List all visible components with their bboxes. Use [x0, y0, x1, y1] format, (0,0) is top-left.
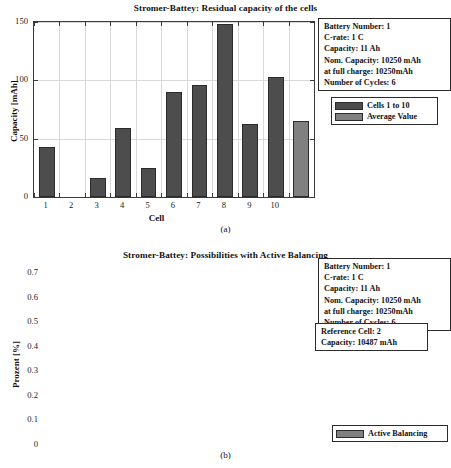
axis-tick: [238, 193, 239, 197]
legend-b: Active Balancing: [332, 425, 448, 442]
info-box-b: Battery Number: 1 C-rate: 1 C Capacity: …: [318, 258, 451, 331]
chart-title-a: Stromer-Battey: Residual capacity of the…: [0, 3, 451, 13]
gridline-vertical: [263, 22, 264, 197]
legend-swatch: [335, 102, 363, 110]
legend-a: Cells 1 to 10Average Value: [331, 97, 438, 125]
info-battery-number: Battery Number: 1: [324, 261, 446, 272]
info-capacity: Capacity: 11 Ah: [324, 43, 446, 54]
axis-tick: [34, 193, 35, 197]
gridline-vertical: [59, 22, 60, 197]
reference-cell-box: Reference Cell: 2 Capacity: 10487 mAh: [315, 323, 428, 351]
info-c-rate: C-rate: 1 C: [324, 32, 446, 43]
x-axis-tick-label: 2: [69, 200, 73, 210]
x-axis-tick-label: 7: [196, 200, 200, 210]
bar: [217, 24, 233, 197]
y-axis-tick-label: 0: [0, 191, 28, 201]
axis-tick: [59, 193, 60, 197]
y-axis-tick-label: 0.1: [0, 414, 38, 424]
axis-tick: [314, 193, 315, 197]
axis-tick: [34, 22, 35, 26]
axis-tick: [110, 193, 111, 197]
x-axis-tick-label: 10: [271, 200, 280, 210]
x-axis-tick-label: 5: [145, 200, 149, 210]
axis-tick: [34, 139, 38, 140]
gridline-vertical: [212, 22, 213, 197]
bar: [141, 168, 157, 197]
x-axis-title-a: Cell: [0, 213, 313, 223]
axis-tick: [263, 22, 264, 26]
y-axis-tick-label: 0.6: [0, 292, 38, 302]
axis-tick: [187, 22, 188, 26]
y-axis-tick-label: 0: [0, 439, 38, 449]
x-axis-tick-label: 9: [247, 200, 251, 210]
gridline-vertical: [85, 22, 86, 197]
figure-active-balancing: Stromer-Battey: Possibilities with Activ…: [0, 240, 451, 468]
axis-tick: [289, 193, 290, 197]
gridline-vertical: [238, 22, 239, 197]
axis-tick: [136, 193, 137, 197]
figure-caption-a: (a): [0, 224, 451, 234]
info-number-of-cycles: Number of Cycles: 6: [324, 77, 446, 88]
axis-tick: [136, 22, 137, 26]
legend-item-label: Cells 1 to 10: [367, 101, 410, 111]
axis-tick: [85, 193, 86, 197]
info-c-rate: C-rate: 1 C: [324, 272, 446, 283]
y-axis-tick-label: 100: [0, 74, 28, 84]
gridline-horizontal: [34, 22, 314, 23]
axis-tick: [59, 22, 60, 26]
legend-item: Cells 1 to 10: [335, 100, 434, 111]
axis-tick: [161, 193, 162, 197]
gridline-vertical: [136, 22, 137, 197]
bar: [39, 147, 55, 197]
info-capacity: Capacity: 11 Ah: [324, 283, 446, 294]
x-axis-tick-label: 4: [120, 200, 124, 210]
reference-cell-line: Reference Cell: 2: [321, 326, 423, 337]
y-axis-tick-label: 150: [0, 16, 28, 26]
plot-area-a: [33, 21, 315, 198]
legend-item-label: Active Balancing: [368, 429, 427, 439]
y-axis-tick-label: 0.2: [0, 390, 38, 400]
axis-tick: [212, 193, 213, 197]
gridline-vertical: [161, 22, 162, 197]
bar: [192, 85, 208, 197]
legend-item: Average Value: [335, 111, 434, 122]
axis-tick: [314, 22, 315, 26]
axis-tick: [212, 22, 213, 26]
legend-item: Active Balancing: [336, 428, 444, 439]
gridline-vertical: [187, 22, 188, 197]
y-axis-tick-label: 0.5: [0, 316, 38, 326]
info-box-a: Battery Number: 1 C-rate: 1 C Capacity: …: [318, 18, 451, 91]
info-nom-capacity: Nom. Capacity: 10250 mAh: [324, 55, 446, 66]
figure-caption-b: (b): [0, 450, 451, 460]
axis-tick: [34, 80, 38, 81]
info-battery-number: Battery Number: 1: [324, 21, 446, 32]
axis-tick: [310, 80, 314, 81]
y-axis-tick-label: 0.4: [0, 341, 38, 351]
figure-residual-capacity: Stromer-Battey: Residual capacity of the…: [0, 0, 451, 240]
x-axis-tick-label: 6: [171, 200, 175, 210]
legend-swatch: [335, 113, 363, 121]
axis-tick: [85, 22, 86, 26]
y-axis-tick-label: 0.7: [0, 267, 38, 277]
x-axis-tick-label: 3: [94, 200, 98, 210]
bar: [293, 121, 309, 197]
info-at-full-charge: at full charge: 10250mAh: [324, 306, 446, 317]
axis-tick: [263, 193, 264, 197]
gridline-vertical: [289, 22, 290, 197]
bar: [90, 178, 106, 197]
bar: [242, 124, 258, 198]
bar: [166, 92, 182, 197]
gridline-vertical: [110, 22, 111, 197]
axis-tick: [161, 22, 162, 26]
bar: [268, 77, 284, 197]
x-axis-tick-label: 8: [222, 200, 226, 210]
axis-tick: [187, 193, 188, 197]
legend-swatch: [336, 430, 364, 438]
axis-tick: [110, 22, 111, 26]
axis-tick: [289, 22, 290, 26]
y-axis-tick-label: 50: [0, 133, 28, 143]
bar: [115, 128, 131, 197]
y-axis-tick-label: 0.3: [0, 365, 38, 375]
info-nom-capacity: Nom. Capacity: 10250 mAh: [324, 295, 446, 306]
axis-tick: [310, 139, 314, 140]
